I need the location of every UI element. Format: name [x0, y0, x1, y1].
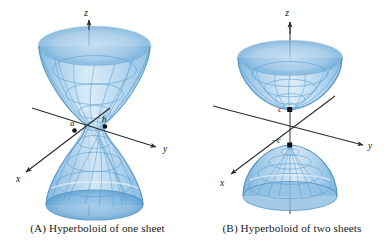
- point-a-dot: [72, 128, 77, 133]
- point-c-dot: [287, 107, 292, 112]
- upper-sheet-surface: [238, 41, 342, 110]
- panel-a-point-a-label: a: [70, 118, 75, 128]
- panel-a-x-axis-label: x: [15, 174, 21, 184]
- bottom-rim-ellipse: [46, 190, 143, 220]
- panel-a-point-b-label: b: [102, 114, 107, 124]
- figure-root: z y x a b (A) Hyperboloid of one sheet: [0, 0, 389, 248]
- panel-a-caption: (A) Hyperboloid of one sheet: [0, 222, 195, 234]
- panel-a-y-axis-label: y: [162, 144, 168, 154]
- hyperboloid-one-sheet-surface: [39, 27, 150, 220]
- point-minus-c-dot: [287, 143, 292, 148]
- hyperboloid-two-sheets-graphic: z y x c −c: [195, 0, 389, 222]
- point-b-dot: [103, 124, 108, 129]
- panel-hyperboloid-two-sheets: z y x c −c (B) Hyperboloid of two sheets: [195, 0, 389, 248]
- hyperboloid-one-sheet-graphic: z y x a b: [0, 0, 195, 222]
- panel-b-z-axis-label: z: [284, 8, 289, 18]
- panel-b-point-c-label: c: [278, 104, 282, 114]
- panel-b-point-minus-c-label: −c: [271, 135, 281, 145]
- panel-hyperboloid-one-sheet: z y x a b (A) Hyperboloid of one sheet: [0, 0, 195, 248]
- panel-b-y-axis-label: y: [367, 141, 373, 151]
- panel-b-x-axis-label: x: [219, 178, 225, 188]
- panel-a-z-axis-label: z: [83, 8, 88, 18]
- panel-b-caption: (B) Hyperboloid of two sheets: [195, 222, 389, 234]
